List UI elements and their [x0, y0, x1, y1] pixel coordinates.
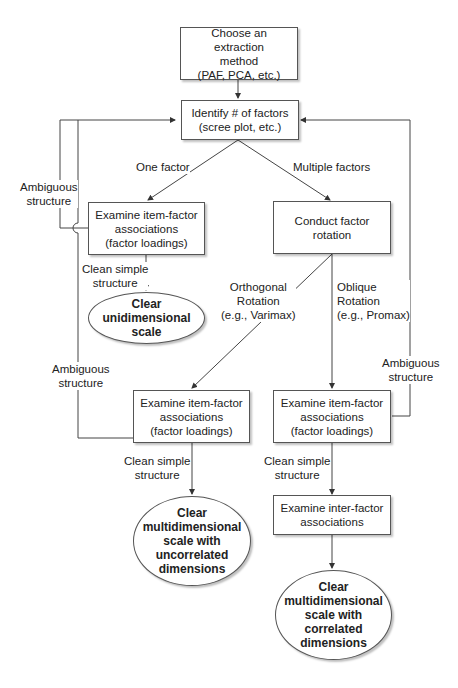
edge-label-clean-3: Clean simple structure [264, 454, 330, 482]
edge-label-ambiguous-2: Ambiguous structure [52, 362, 110, 390]
edge-label-multiple-factors: Multiple factors [293, 160, 370, 174]
node-clear-unidimensional: Clear unidimensional scale [88, 292, 205, 344]
node-identify-factors: Identify # of factors (scree plot, etc.) [181, 100, 299, 140]
edge-label-one-factor: One factor [136, 160, 190, 174]
node-inter-factor: Examine inter-factor associations [273, 495, 391, 535]
node-examine-orthogonal: Examine item-factor associations (factor… [133, 390, 250, 443]
node-choose-extraction: Choose an extraction method (PAF, PCA, e… [180, 27, 298, 80]
node-clear-correlated: Clear multidimensional scale with correl… [275, 570, 392, 660]
node-examine-one-factor: Examine item-factor associations (factor… [88, 202, 205, 255]
edge-label-ambiguous-3: Ambiguous structure [382, 356, 440, 384]
edge-label-oblique: Oblique Rotation (e.g., Promax) [337, 280, 410, 322]
node-conduct-rotation: Conduct factor rotation [273, 201, 391, 254]
edge-label-orthogonal: Orthogonal Rotation (e.g., Varimax) [221, 280, 296, 322]
node-clear-uncorrelated: Clear multidimensional scale with uncorr… [133, 496, 251, 586]
edge-label-ambiguous-1: Ambiguous structure [20, 180, 78, 208]
node-examine-oblique: Examine item-factor associations (factor… [273, 390, 391, 443]
edge-label-clean-1: Clean simple structure [82, 262, 148, 290]
edge-label-clean-2: Clean simple structure [124, 454, 190, 482]
